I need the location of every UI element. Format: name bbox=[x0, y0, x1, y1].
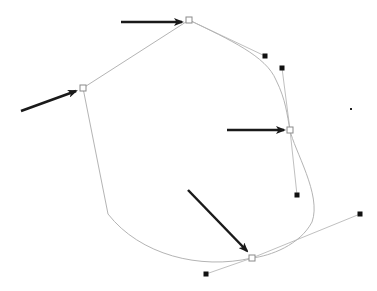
anchor-bottom[interactable] bbox=[249, 255, 255, 261]
bezier-path[interactable] bbox=[83, 20, 314, 262]
anchor-left[interactable] bbox=[80, 85, 86, 91]
diagram-canvas bbox=[0, 0, 377, 291]
handle-top-out[interactable] bbox=[263, 54, 268, 59]
handle-bottom-out[interactable] bbox=[204, 272, 209, 277]
handle-bottom-in-line bbox=[252, 214, 360, 258]
bezier-path-diagram bbox=[0, 0, 377, 291]
anchor-right[interactable] bbox=[287, 127, 293, 133]
handle-right-out[interactable] bbox=[295, 193, 300, 198]
handle-bottom-out-line bbox=[206, 258, 252, 274]
handle-bottom-in[interactable] bbox=[358, 212, 363, 217]
annotation-arrows bbox=[21, 22, 284, 251]
arrow-to-bottom-anchor-icon bbox=[188, 190, 247, 251]
control-handles bbox=[204, 54, 363, 277]
stray-dot bbox=[350, 108, 352, 110]
handle-lines bbox=[189, 20, 360, 274]
arrow-to-left-anchor-icon bbox=[21, 91, 76, 111]
handle-right-in[interactable] bbox=[280, 66, 285, 71]
stray-dots bbox=[350, 108, 352, 110]
anchor-top[interactable] bbox=[186, 17, 192, 23]
